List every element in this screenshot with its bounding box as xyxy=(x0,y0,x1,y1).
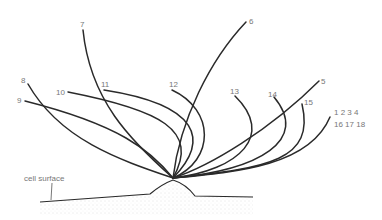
filament-12 xyxy=(172,90,204,178)
label-11: 11 xyxy=(101,80,110,89)
filament-14 xyxy=(173,97,286,178)
label-16-17-18: 16 17 18 xyxy=(334,120,366,129)
label-13: 13 xyxy=(230,87,239,96)
label-14: 14 xyxy=(268,90,277,99)
filament-diagram: 7 6 8 9 10 11 12 13 14 15 5 1 2 3 4 16 1… xyxy=(0,0,382,220)
label-15: 15 xyxy=(304,98,313,107)
label-6: 6 xyxy=(249,17,254,26)
cell-body xyxy=(40,180,253,215)
label-5: 5 xyxy=(321,77,326,86)
label-9: 9 xyxy=(17,96,22,105)
filament-8 xyxy=(28,84,173,178)
label-10: 10 xyxy=(56,88,65,97)
label-12: 12 xyxy=(169,80,178,89)
label-8: 8 xyxy=(21,76,26,85)
filament-9 xyxy=(25,101,173,178)
label-1-2-3-4: 1 2 3 4 xyxy=(334,108,359,117)
cell-surface-leader xyxy=(51,183,52,200)
filament-10 xyxy=(68,92,181,178)
label-7: 7 xyxy=(80,20,85,29)
filament-6 xyxy=(173,22,246,178)
cell-surface-label: cell surface xyxy=(24,174,65,183)
